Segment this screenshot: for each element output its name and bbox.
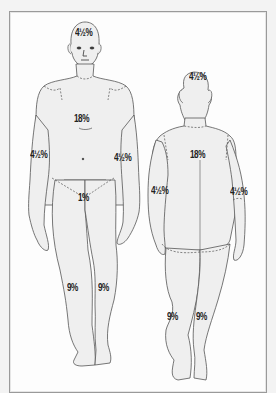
back-right-arm-label: 4½% (230, 187, 247, 197)
front-trunk-label: 18% (74, 114, 89, 124)
front-left-leg-label: 9% (98, 283, 109, 293)
front-right-leg-label: 9% (67, 283, 78, 293)
front-right-arm-label: 4½% (30, 150, 47, 160)
back-right-leg-label: 9% (196, 312, 207, 322)
front-head-label: 4½% (75, 28, 92, 38)
back-trunk-label: 18% (190, 150, 205, 160)
back-head-label: 4½% (189, 72, 206, 82)
back-left-leg-label: 9% (167, 312, 178, 322)
back-left-arm-label: 4½% (151, 186, 168, 196)
back-figure (148, 72, 245, 380)
front-right-arm (29, 115, 50, 251)
front-genitals-label: 1% (78, 193, 89, 203)
front-left-arm-label: 4½% (114, 153, 131, 163)
